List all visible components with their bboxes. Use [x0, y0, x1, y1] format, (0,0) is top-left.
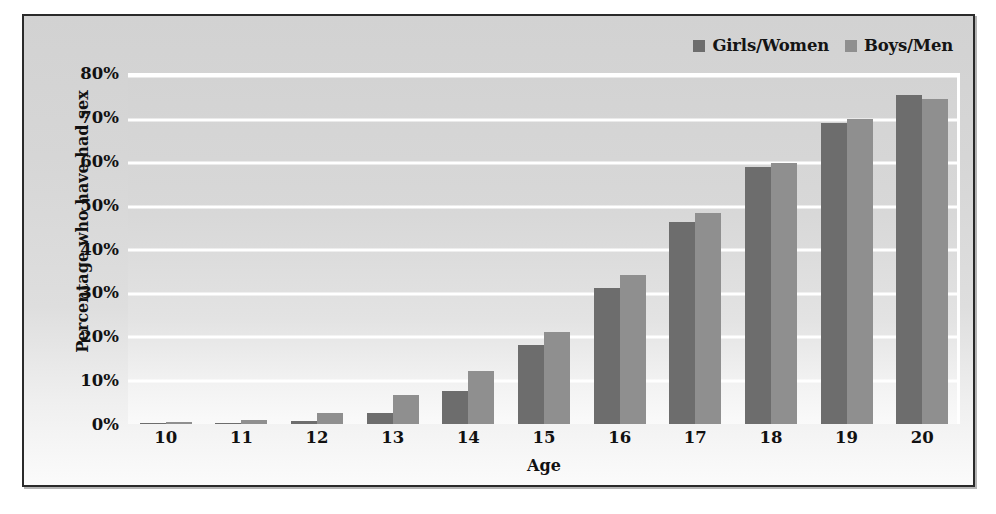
bar-boys-men-age-17 — [695, 213, 721, 424]
x-axis-ticks: 1011121314151617181920 — [128, 428, 960, 447]
y-axis-tick-label: 70% — [80, 107, 119, 126]
bar-boys-men-age-14 — [468, 371, 494, 424]
bar-girls-women-age-19 — [821, 123, 847, 424]
chart-figure: Girls/Women Boys/Men Percentage who have… — [22, 14, 975, 487]
legend-entry-girls-women: Girls/Women — [693, 36, 829, 55]
bar-group — [128, 73, 204, 424]
bar-girls-women-age-16 — [594, 288, 620, 424]
bar-girls-women-age-18 — [745, 167, 771, 424]
chart-legend: Girls/Women Boys/Men — [693, 36, 953, 55]
bar-girls-women-age-14 — [442, 391, 468, 424]
y-axis-tick-label: 30% — [80, 283, 119, 302]
bar-group — [355, 73, 431, 424]
bar-boys-men-age-12 — [317, 413, 343, 424]
legend-swatch-boys-men — [845, 40, 857, 52]
x-axis-tick-label: 11 — [204, 428, 280, 447]
y-axis-tick-label: 10% — [80, 371, 119, 390]
bar-boys-men-age-19 — [847, 119, 873, 424]
y-axis-tick-label: 50% — [80, 195, 119, 214]
legend-entry-boys-men: Boys/Men — [845, 36, 953, 55]
bar-group — [582, 73, 658, 424]
x-axis-tick-label: 13 — [355, 428, 431, 447]
bar-boys-men-age-16 — [620, 275, 646, 424]
bar-group — [204, 73, 280, 424]
plot-block: 80%70%60%50%40%30%20%10%0% — [128, 73, 960, 424]
legend-label-girls-women: Girls/Women — [712, 36, 829, 55]
bar-girls-women-age-12 — [291, 421, 317, 424]
bar-group — [506, 73, 582, 424]
bar-group — [733, 73, 809, 424]
x-axis-tick-label: 16 — [582, 428, 658, 447]
bar-boys-men-age-18 — [771, 163, 797, 424]
legend-label-boys-men: Boys/Men — [864, 36, 953, 55]
y-axis-tick-label: 60% — [80, 151, 119, 170]
bar-boys-men-age-10 — [166, 422, 192, 424]
x-axis-title: Age — [128, 456, 960, 475]
bar-boys-men-age-11 — [241, 420, 267, 424]
bar-group — [279, 73, 355, 424]
bar-boys-men-age-15 — [544, 332, 570, 424]
y-axis-tick-label: 0% — [92, 415, 119, 434]
y-axis-tick-label: 40% — [80, 239, 119, 258]
y-axis-tick-label: 80% — [80, 64, 119, 83]
x-axis-tick-label: 19 — [809, 428, 885, 447]
bar-girls-women-age-20 — [896, 95, 922, 424]
x-axis-tick-label: 14 — [431, 428, 507, 447]
x-axis-tick-label: 15 — [506, 428, 582, 447]
bar-boys-men-age-13 — [393, 395, 419, 424]
bar-boys-men-age-20 — [922, 99, 948, 424]
x-axis-tick-label: 18 — [733, 428, 809, 447]
legend-swatch-girls-women — [693, 40, 705, 52]
x-axis-tick-label: 12 — [279, 428, 355, 447]
bar-group — [431, 73, 507, 424]
y-axis-tick-label: 20% — [80, 327, 119, 346]
x-axis-tick-label: 20 — [884, 428, 960, 447]
x-axis-tick-label: 10 — [128, 428, 204, 447]
bar-girls-women-age-13 — [367, 413, 393, 424]
bar-group — [657, 73, 733, 424]
bar-group — [809, 73, 885, 424]
x-axis-tick-label: 17 — [657, 428, 733, 447]
bars-layer — [128, 73, 960, 424]
bar-girls-women-age-15 — [518, 345, 544, 424]
bar-girls-women-age-17 — [669, 222, 695, 424]
bar-group — [884, 73, 960, 424]
bar-girls-women-age-11 — [215, 423, 241, 424]
bar-girls-women-age-10 — [140, 423, 166, 424]
